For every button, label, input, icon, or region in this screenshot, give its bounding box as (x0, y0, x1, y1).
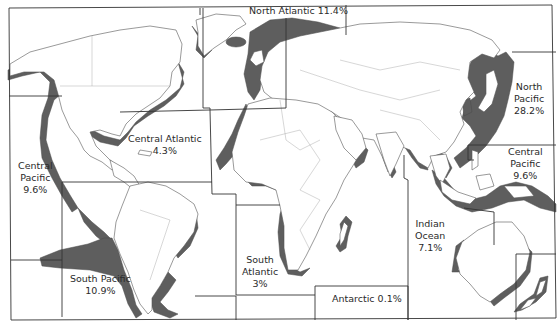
label-north-pacific: North Pacific 28.2% (514, 81, 544, 117)
label-south-atlantic: South Atlantic 3% (242, 254, 278, 290)
greenland (196, 14, 246, 56)
label-indian-ocean: Indian Ocean 7.1% (415, 218, 445, 254)
label-antarctic: Antarctic 0.1% (332, 293, 402, 305)
label-central-pacific-west: Central Pacific 9.6% (18, 160, 53, 196)
label-central-atlantic: Central Atlantic 4.3% (128, 133, 202, 157)
australia (456, 222, 530, 302)
label-central-pacific-east: Central Pacific 9.6% (508, 146, 543, 182)
label-south-pacific: South Pacific 10.9% (70, 273, 131, 297)
label-north-atlantic: North Atlantic 11.4% (249, 5, 348, 17)
